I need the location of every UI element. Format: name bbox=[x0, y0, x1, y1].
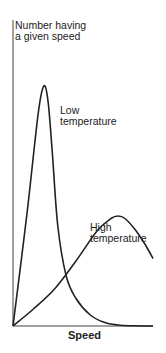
low-temperature-label-line-2: temperature bbox=[60, 116, 117, 127]
chart bbox=[0, 0, 166, 353]
high-temperature-label-line-2: temperature bbox=[90, 233, 147, 244]
y-axis-label: Number having a given speed bbox=[15, 20, 86, 42]
y-axis-label-line-2: a given speed bbox=[15, 31, 86, 42]
low-temperature-label: Low temperature bbox=[60, 105, 117, 127]
high-temperature-label: High temperature bbox=[90, 222, 147, 244]
x-axis-label: Speed bbox=[68, 330, 101, 341]
